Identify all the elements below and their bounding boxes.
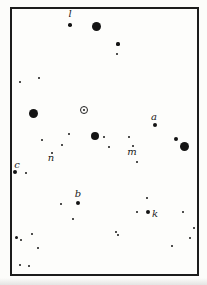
star-label-m: m (127, 147, 136, 157)
circled-dot-center (83, 109, 85, 111)
star-dot (76, 201, 80, 205)
star-label-c: c (14, 160, 20, 170)
star-dot (15, 236, 18, 239)
star-dot (180, 142, 189, 151)
star-label-b: b (75, 189, 81, 199)
circled-dot-marker-icon (80, 106, 88, 114)
chart-frame-border (10, 7, 199, 276)
star-dot (153, 123, 157, 127)
star-dot (92, 22, 101, 31)
star-dot (116, 42, 119, 45)
star-label-a: a (151, 112, 157, 122)
star-label-k: k (152, 209, 158, 219)
star-label-n: n (48, 153, 54, 163)
scan-edge-shadow (0, 278, 207, 285)
star-chart-page: lamncbk (0, 0, 207, 285)
star-dot (29, 109, 38, 118)
star-dot (174, 137, 178, 141)
star-dot (13, 170, 17, 174)
star-label-l: l (68, 9, 71, 19)
star-dot (68, 23, 72, 27)
